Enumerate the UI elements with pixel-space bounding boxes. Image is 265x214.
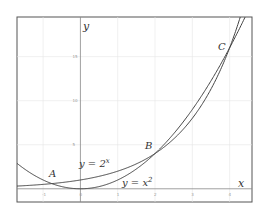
point-b-label: B (144, 140, 152, 151)
intersection-chart: -10123451015 y x A B C y = 2x y = x2 (0, 0, 265, 214)
x-axis-label: x (238, 177, 245, 190)
x-tick-label: -1 (42, 192, 46, 197)
y-tick-label: 10 (72, 98, 78, 103)
x-tick-label: 3 (191, 192, 194, 197)
curve-exp-label: y = 2x (78, 157, 110, 169)
x-tick-label: 0 (79, 192, 82, 197)
point-c-label: C (218, 41, 226, 52)
x-tick-label: 1 (117, 192, 120, 197)
x-tick-label: 4 (229, 192, 232, 197)
y-tick-label: 15 (72, 54, 78, 59)
x-tick-label: 2 (154, 192, 157, 197)
point-a-label: A (48, 168, 56, 179)
y-tick-label: 5 (72, 142, 75, 147)
y-axis-label: y (82, 20, 90, 33)
